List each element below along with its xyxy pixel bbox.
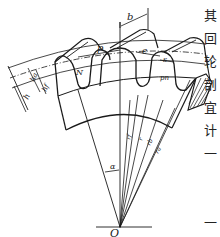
- label-b: b: [127, 11, 133, 22]
- gear-diagram: b p e s N pn ha hf h rf r rb ra α O: [0, 0, 220, 237]
- side-char: 计: [204, 119, 220, 142]
- label-hf: hf: [41, 82, 52, 93]
- side-char: 回: [204, 27, 220, 50]
- label-r: r: [136, 135, 144, 141]
- pitch-circle: [10, 51, 205, 78]
- side-text-column: 其 回 轮 剖 宜 计 一 一 回: [204, 4, 220, 237]
- label-rb: rb: [145, 137, 154, 146]
- side-char: 宜: [204, 96, 220, 119]
- side-char: 轮: [204, 50, 220, 73]
- side-char: 剖: [204, 73, 220, 96]
- side-char: 其: [204, 4, 220, 27]
- label-N: N: [75, 68, 84, 77]
- side-char: 一: [204, 211, 220, 234]
- label-O: O: [110, 227, 119, 237]
- side-char: [204, 165, 220, 188]
- label-alpha: α: [110, 162, 116, 171]
- inner-rim-arc: [66, 114, 172, 130]
- side-char: [204, 188, 220, 211]
- tooth-right: [164, 52, 196, 90]
- label-pn: pn: [160, 74, 169, 82]
- face-width-dim: [121, 14, 147, 26]
- label-s: s: [163, 55, 167, 64]
- side-char: 一: [204, 142, 220, 165]
- side-char: 回: [204, 234, 220, 237]
- label-p: p: [97, 42, 104, 53]
- label-e: e: [142, 46, 147, 56]
